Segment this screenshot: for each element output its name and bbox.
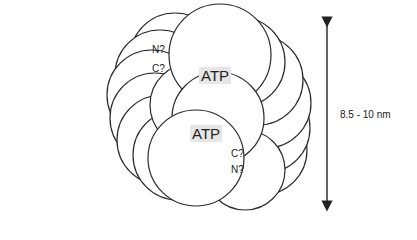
upper-c-terminus-label: C?	[152, 64, 165, 74]
filament-diagram: N? C? ATP ATP C? N? 8.5 - 10 nm	[0, 0, 417, 240]
atp-label-upper: ATP	[199, 67, 231, 84]
subunit-ring-graphic	[0, 0, 417, 240]
upper-n-terminus-label: N?	[152, 45, 165, 55]
dimension-label: 8.5 - 10 nm	[340, 109, 391, 120]
atp-label-lower: ATP	[190, 125, 222, 142]
lower-n-terminus-label: N?	[231, 165, 244, 175]
lower-c-terminus-label: C?	[231, 149, 244, 159]
